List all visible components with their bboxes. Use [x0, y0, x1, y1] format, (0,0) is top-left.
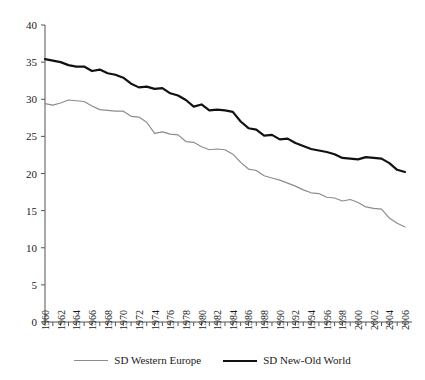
x-tick-label: 1980: [197, 310, 208, 330]
x-tick-label: 1966: [87, 310, 98, 330]
x-tick-label: 1986: [243, 310, 254, 330]
x-tick-label: 1992: [290, 310, 301, 330]
legend-label-sd-western-europe: SD Western Europe: [114, 355, 201, 366]
x-tick-label: 1978: [181, 310, 192, 330]
x-tick-label: 1970: [118, 310, 129, 330]
y-axis-ticks: [41, 25, 45, 322]
legend-swatch-sd-western-europe: [74, 360, 108, 361]
y-axis-tick-labels: 0510152025303540: [26, 19, 38, 328]
x-tick-label: 1968: [103, 310, 114, 330]
x-tick-label: 1984: [228, 310, 239, 330]
x-tick-label: 1988: [259, 310, 270, 330]
y-tick-label: 10: [26, 242, 38, 254]
x-axis-group: 1960196219641966196819701972197419761978…: [40, 310, 412, 330]
x-tick-label: 1972: [134, 310, 145, 330]
x-tick-label: 1994: [306, 310, 317, 330]
series-line-sd-new-old-world: [45, 59, 405, 172]
y-tick-label: 35: [26, 56, 38, 68]
x-axis-tick-labels: 1960196219641966196819701972197419761978…: [40, 310, 411, 330]
legend-swatch-sd-new-old-world: [223, 360, 257, 362]
data-series-group: [45, 59, 405, 227]
chart-legend: SD Western Europe SD New-Old World: [0, 355, 425, 366]
y-tick-label: 20: [26, 168, 38, 180]
x-tick-label: 2000: [353, 310, 364, 330]
legend-item-sd-new-old-world: SD New-Old World: [223, 355, 351, 366]
x-tick-label: 1990: [275, 310, 286, 330]
x-tick-label: 1960: [40, 310, 51, 330]
chart-container: 0510152025303540 19601962196419661968197…: [0, 0, 425, 380]
line-chart-plot: 0510152025303540 19601962196419661968197…: [0, 0, 425, 380]
x-tick-label: 2002: [369, 310, 380, 330]
y-tick-label: 15: [26, 205, 38, 217]
y-tick-label: 40: [26, 19, 38, 31]
x-tick-label: 2004: [384, 310, 395, 330]
x-tick-label: 1962: [56, 310, 67, 330]
legend-item-sd-western-europe: SD Western Europe: [74, 355, 201, 366]
x-tick-label: 1974: [150, 310, 161, 330]
y-tick-label: 30: [26, 93, 38, 105]
x-tick-label: 1996: [322, 310, 333, 330]
legend-label-sd-new-old-world: SD New-Old World: [263, 355, 351, 366]
x-tick-label: 1964: [71, 310, 82, 330]
series-line-sd-western-europe: [45, 100, 405, 227]
y-tick-label: 5: [32, 279, 38, 291]
x-tick-label: 1998: [337, 310, 348, 330]
y-tick-label: 0: [32, 316, 38, 328]
x-axis-ticks: [45, 322, 405, 326]
x-tick-label: 2006: [400, 310, 411, 330]
y-tick-label: 25: [26, 130, 38, 142]
x-tick-label: 1982: [212, 310, 223, 330]
y-axis-group: 0510152025303540: [26, 19, 45, 328]
x-tick-label: 1976: [165, 310, 176, 330]
